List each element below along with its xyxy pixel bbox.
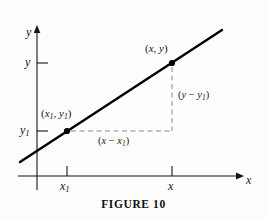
x-tick-left-label: x1	[60, 180, 70, 194]
y-tick-lower-label-sub: 1	[25, 128, 29, 138]
point-x1-y1-label: (x1, y1)	[41, 108, 72, 121]
y-tick-lower-label: y1	[20, 124, 30, 138]
run-label: (x − x1)	[98, 136, 129, 148]
point-x1-y1-close-paren: )	[68, 107, 72, 119]
rise-label: (y − y1)	[178, 90, 209, 102]
point-x-y-marker	[169, 60, 175, 66]
point-x1-y1-marker	[64, 128, 70, 134]
x-tick-right-label-main: x	[168, 179, 173, 193]
y-tick-upper-label-main: y	[25, 55, 30, 69]
rise-operator: −	[186, 89, 197, 100]
x-axis-arrow-icon	[236, 173, 244, 180]
run-close-paren: )	[126, 135, 130, 146]
y-axis-arrow-icon	[34, 25, 41, 33]
y-tick-upper-label: y	[25, 56, 30, 68]
run-operator: −	[106, 135, 117, 146]
point-x-y-label: (x, y)	[145, 43, 168, 54]
point-x-y-close-paren: )	[164, 42, 168, 54]
y-axis	[34, 25, 41, 190]
figure-caption: FIGURE 10	[0, 198, 267, 210]
x-tick-left-label-sub: 1	[65, 184, 69, 194]
y-axis-label: y	[26, 26, 31, 38]
x-tick-right-label: x	[168, 180, 173, 192]
x-axis	[18, 173, 244, 180]
rise-close-paren: )	[206, 89, 210, 100]
x-axis-label: x	[246, 174, 251, 186]
figure-10-diagram: y x y y1 x1 x (x, y) (x1, y1) (y − y1) (…	[0, 0, 267, 221]
dashed-guides	[71, 67, 172, 131]
